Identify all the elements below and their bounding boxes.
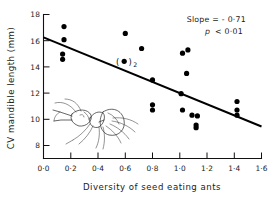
data-point bbox=[180, 107, 185, 112]
axes-group bbox=[44, 15, 262, 159]
overlapping-point-marker: ( ) 2 bbox=[116, 57, 137, 69]
x-tick-label: 1·0 bbox=[174, 164, 186, 173]
data-point bbox=[184, 71, 189, 76]
data-point bbox=[195, 113, 200, 118]
overlap-count-label: 2 bbox=[133, 61, 137, 68]
x-tick-label: 0·2 bbox=[65, 164, 77, 173]
data-point bbox=[189, 113, 194, 118]
y-tick-label: 16 bbox=[30, 37, 40, 46]
x-tick-label: 0·8 bbox=[146, 164, 158, 173]
data-point bbox=[179, 91, 184, 96]
x-tick-label: 1·2 bbox=[201, 164, 213, 173]
x-tick-label: 1·6 bbox=[255, 164, 267, 173]
x-tick-labels: 0·0 0·2 0·4 0·6 0·8 1·0 1·2 1·4 1·6 bbox=[37, 164, 267, 173]
y-tick-marks bbox=[44, 15, 50, 146]
data-point bbox=[194, 125, 199, 130]
chart-canvas: 18 16 14 12 10 8 0·0 0·2 0·4 0·6 0·8 1· bbox=[0, 0, 279, 202]
overlap-paren-close: ) bbox=[129, 57, 132, 67]
data-point bbox=[180, 51, 185, 56]
pvalue-annotation: < 0·01 bbox=[215, 27, 243, 36]
y-axis-title: CV mandible length (mm) bbox=[6, 27, 16, 149]
slope-annotation: Slope = - 0·71 bbox=[187, 15, 246, 24]
ant-illustration-icon bbox=[53, 99, 138, 149]
y-tick-label: 12 bbox=[30, 89, 40, 98]
x-tick-marks bbox=[44, 153, 262, 159]
data-point bbox=[234, 99, 239, 104]
data-point bbox=[234, 107, 239, 112]
data-point bbox=[150, 107, 155, 112]
data-point bbox=[60, 57, 65, 62]
y-tick-label: 10 bbox=[30, 115, 40, 124]
statistics-annotation: Slope = - 0·71 p < 0·01 bbox=[187, 15, 246, 36]
x-tick-label: 0·0 bbox=[37, 164, 49, 173]
y-tick-label: 18 bbox=[30, 10, 40, 19]
data-point bbox=[61, 24, 66, 29]
data-point bbox=[185, 47, 190, 52]
data-point bbox=[60, 52, 65, 57]
overlap-paren-open: ( bbox=[116, 57, 119, 67]
y-tick-label: 8 bbox=[35, 141, 40, 150]
pvalue-symbol: p bbox=[204, 27, 210, 36]
data-point bbox=[234, 113, 239, 118]
data-point bbox=[139, 46, 144, 51]
data-point bbox=[150, 102, 155, 107]
x-tick-label: 1·4 bbox=[228, 164, 240, 173]
y-tick-label: 14 bbox=[30, 63, 40, 72]
scatter-chart-figure: 18 16 14 12 10 8 0·0 0·2 0·4 0·6 0·8 1· bbox=[0, 0, 279, 202]
x-axis-title: Diversity of seed eating ants bbox=[83, 182, 221, 192]
data-point bbox=[150, 77, 155, 82]
overlap-data-point bbox=[122, 59, 127, 64]
x-tick-label: 0·6 bbox=[119, 164, 131, 173]
data-point bbox=[123, 31, 128, 36]
x-tick-label: 0·4 bbox=[92, 164, 104, 173]
data-point bbox=[61, 37, 66, 42]
y-tick-labels: 18 16 14 12 10 8 bbox=[30, 10, 40, 150]
